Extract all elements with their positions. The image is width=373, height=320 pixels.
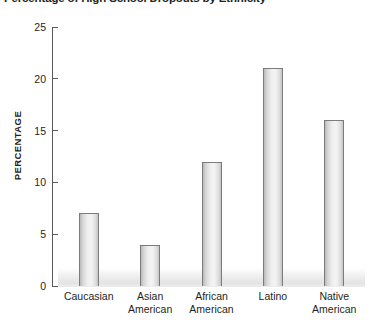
x-label-line: Native xyxy=(296,290,372,303)
y-tick-label-5: 5 xyxy=(16,229,46,239)
y-tick-label-25: 25 xyxy=(16,22,46,32)
y-tick-label-10: 10 xyxy=(16,177,46,187)
bar-african-american xyxy=(202,162,222,286)
chart-figure: Percentage of High School Dropouts by Et… xyxy=(0,0,373,320)
x-label-line: American xyxy=(174,303,250,316)
y-tick-0 xyxy=(52,286,58,287)
y-tick-15 xyxy=(52,130,58,131)
y-tick-label-15: 15 xyxy=(16,126,46,136)
y-axis-line xyxy=(52,27,53,287)
y-tick-label-0: 0 xyxy=(16,281,46,291)
y-tick-label-20: 20 xyxy=(16,74,46,84)
chart-title: Percentage of High School Dropouts by Et… xyxy=(4,0,373,5)
y-tick-20 xyxy=(52,78,58,79)
bar-caucasian xyxy=(79,213,99,286)
y-tick-5 xyxy=(52,234,58,235)
y-tick-25 xyxy=(52,27,58,28)
x-label-line: American xyxy=(296,303,372,316)
x-label-native-american: NativeAmerican xyxy=(296,290,372,316)
bar-native-american xyxy=(324,120,344,286)
bar-asian-american xyxy=(140,245,160,286)
y-tick-10 xyxy=(52,182,58,183)
y-axis-title: PERCENTAGE xyxy=(12,106,23,186)
bar-latino xyxy=(263,68,283,286)
